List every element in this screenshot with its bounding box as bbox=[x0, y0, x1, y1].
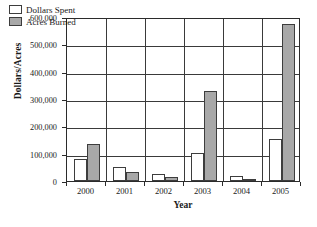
bar bbox=[243, 179, 256, 181]
bar bbox=[191, 153, 204, 181]
x-axis-tick-label: 2001 bbox=[116, 186, 133, 196]
y-axis-tick-label: 0 bbox=[53, 178, 57, 187]
gridline bbox=[67, 46, 299, 47]
category-divider bbox=[262, 19, 263, 181]
x-axis-tick-label: 2004 bbox=[233, 186, 250, 196]
gridline bbox=[67, 156, 299, 157]
bar bbox=[74, 159, 87, 181]
bar bbox=[269, 139, 282, 181]
category-divider bbox=[184, 19, 185, 181]
y-axis-tick-labels: 0100,000200,000300,000400,000500,000600,… bbox=[0, 18, 62, 182]
plot-area bbox=[66, 18, 300, 182]
legend-item: Acres Burned bbox=[9, 16, 76, 27]
bar bbox=[87, 144, 100, 181]
legend-swatch-icon bbox=[9, 17, 22, 26]
category-divider bbox=[145, 19, 146, 181]
gridline bbox=[67, 101, 299, 102]
category-divider bbox=[106, 19, 107, 181]
y-axis-tick-label: 400,000 bbox=[30, 68, 57, 77]
bar bbox=[113, 167, 126, 181]
gridline bbox=[67, 74, 299, 75]
bar-chart-figure: Dollars/Acres 0100,000200,000300,000400,… bbox=[0, 0, 317, 227]
bar bbox=[204, 91, 217, 181]
x-axis-tick-labels: 200020012002200320042005 bbox=[66, 186, 300, 200]
x-axis-tick-label: 2000 bbox=[77, 186, 94, 196]
x-axis-tick-label: 2003 bbox=[194, 186, 211, 196]
x-axis-title: Year bbox=[66, 200, 300, 210]
gridline bbox=[67, 128, 299, 129]
y-axis-tick-label: 300,000 bbox=[30, 96, 57, 105]
legend-label: Dollars Spent bbox=[26, 5, 75, 15]
chart-legend: Dollars SpentAcres Burned bbox=[9, 4, 76, 28]
y-axis-tick-label: 200,000 bbox=[30, 123, 57, 132]
legend-label: Acres Burned bbox=[26, 17, 76, 27]
y-axis-tick-label: 500,000 bbox=[30, 41, 57, 50]
bar bbox=[165, 177, 178, 181]
x-axis-tick-label: 2005 bbox=[272, 186, 289, 196]
y-axis-tick-label: 100,000 bbox=[30, 150, 57, 159]
legend-item: Dollars Spent bbox=[9, 4, 76, 15]
bar bbox=[126, 172, 139, 181]
x-axis-tick-label: 2002 bbox=[155, 186, 172, 196]
legend-swatch-icon bbox=[9, 5, 22, 14]
bar bbox=[230, 176, 243, 181]
bar bbox=[282, 24, 295, 181]
x-axis-tick-mark bbox=[300, 182, 301, 186]
bar bbox=[152, 174, 165, 181]
category-divider bbox=[223, 19, 224, 181]
